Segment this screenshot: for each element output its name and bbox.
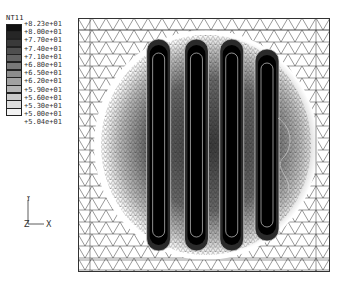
legend-tick-labels: +8.23e+01+8.00e+01+7.70e+01+7.40e+01+7.1… (24, 20, 62, 126)
legend-tick-label: +5.30e+01 (24, 102, 62, 110)
triad-y-label: Y (25, 196, 31, 203)
legend-tick-label: +7.40e+01 (24, 45, 62, 53)
legend-tick-label: +6.80e+01 (24, 61, 62, 69)
legend-tick-label: +7.70e+01 (24, 36, 62, 44)
legend-tick-label: +8.23e+01 (24, 20, 62, 28)
triad-x-label: X (46, 220, 52, 229)
legend-color-bar (6, 24, 22, 116)
legend-tick-label: +6.50e+01 (24, 69, 62, 77)
fe-contour-plot (78, 18, 330, 272)
legend-title: NT11 (6, 14, 24, 22)
triad-z-label: Z (24, 220, 30, 229)
legend-tick-label: +8.00e+01 (24, 28, 62, 36)
axis-triad: Y Z X (18, 196, 58, 236)
legend-tick-label: +5.04e+01 (24, 118, 62, 126)
legend-tick-label: +5.00e+01 (24, 110, 62, 118)
legend-tick-label: +5.90e+01 (24, 86, 62, 94)
legend-tick-label: +7.10e+01 (24, 53, 62, 61)
legend-swatch (6, 108, 22, 116)
legend-tick-label: +6.20e+01 (24, 77, 62, 85)
legend-tick-label: +5.60e+01 (24, 94, 62, 102)
